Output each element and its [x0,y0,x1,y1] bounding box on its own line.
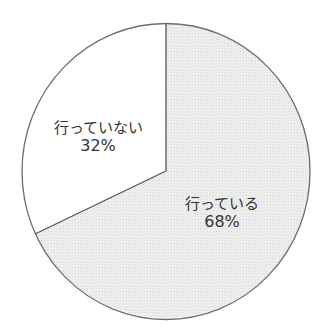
pie-chart [0,0,327,334]
slice-label-yes-pct: 68% [170,213,274,230]
slice-label-yes-name: 行っている [185,195,259,213]
slice-label-no: 行っていない 32% [46,120,150,154]
slice-label-no-name: 行っていない [54,119,143,137]
slice-label-no-pct: 32% [46,137,150,154]
slice-label-yes: 行っている 68% [170,196,274,230]
